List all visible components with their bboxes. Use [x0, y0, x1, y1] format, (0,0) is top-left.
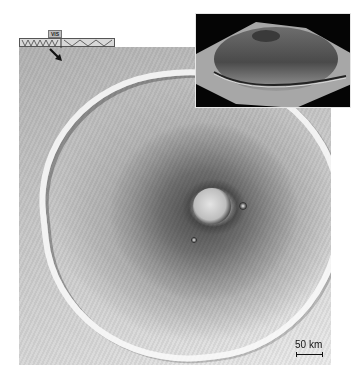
instrument-strip: [19, 38, 115, 47]
truss-icon: [20, 39, 116, 48]
scale-bar: [296, 352, 323, 357]
impact-crater: [239, 202, 247, 210]
perspective-inset: [195, 13, 351, 108]
summit-caldera: [193, 188, 231, 224]
impact-crater: [191, 237, 197, 243]
scale-bar-label: 50 km: [295, 339, 322, 350]
instrument-label: VIS: [48, 30, 62, 38]
volcano-perspective: [196, 14, 351, 108]
pointer-arrow-icon: [49, 48, 63, 62]
